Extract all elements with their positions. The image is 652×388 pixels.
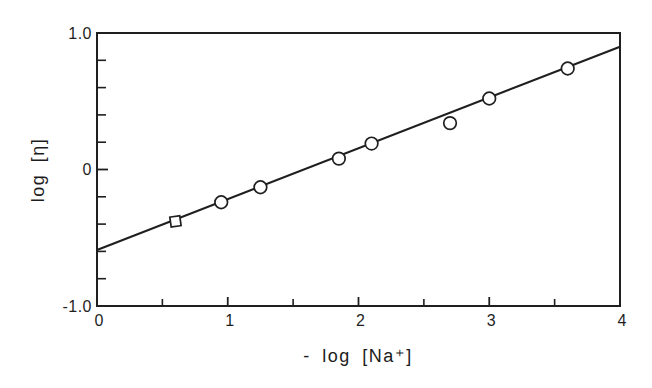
data-point-circle [254,181,267,194]
x-tick-label: 3 [487,312,496,329]
x-tick-label: 0 [95,312,104,329]
data-point-circle [561,62,574,75]
plot-frame [97,33,620,306]
x-tick-label: 2 [356,312,365,329]
chart-canvas: 1.00-1.001234 [0,0,652,388]
y-axis-title: log [η] [28,138,49,203]
data-point-square [170,216,181,227]
figure-container: 1.00-1.001234 log [η] - log [Na⁺] [0,0,652,388]
data-point-circle [483,92,496,105]
data-point-circle [333,152,346,165]
y-tick-label: 1.0 [68,25,92,42]
y-tick-label: 0 [83,161,92,178]
data-point-circle [215,196,228,209]
x-axis-title: - log [Na⁺] [303,345,413,367]
data-point-circle [444,117,457,130]
data-point-circle [365,137,378,150]
y-tick-label: -1.0 [62,298,92,315]
x-tick-label: 1 [225,312,234,329]
x-tick-label: 4 [618,312,627,329]
